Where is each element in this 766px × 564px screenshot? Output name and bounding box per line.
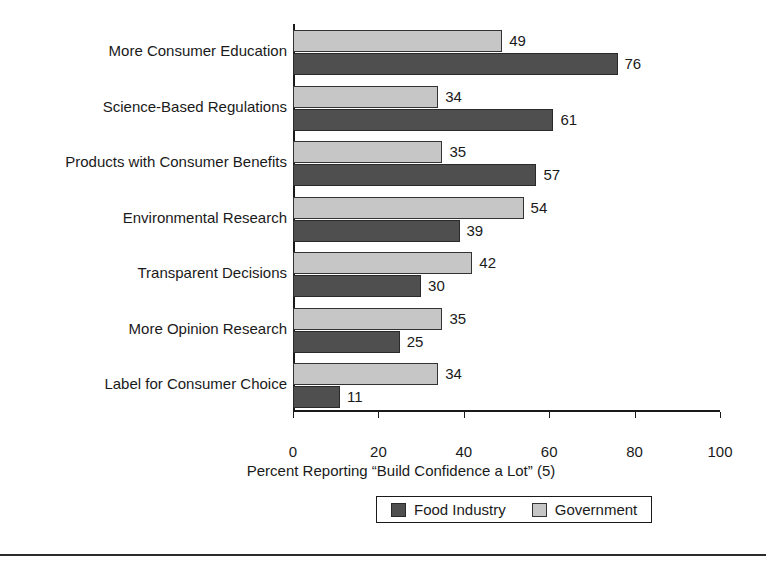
x-axis-tick (635, 412, 636, 418)
legend-item-food-industry: Food Industry (391, 502, 506, 517)
x-tick-label: 100 (707, 444, 732, 459)
bar-gov (293, 86, 438, 108)
bar-ind (293, 53, 618, 75)
bar-gov (293, 308, 442, 330)
bar-chart-figure: More Consumer Education Science-Based Re… (0, 0, 766, 564)
legend-item-government: Government (532, 502, 638, 517)
x-tick-label: 0 (289, 444, 297, 459)
bar-gov (293, 252, 472, 274)
bar-value-label: 11 (347, 386, 363, 408)
bar-value-label: 39 (467, 220, 484, 242)
plot-area: 0 20 40 60 80 100 4976346135575439423035… (293, 24, 720, 412)
bar-value-label: 49 (509, 30, 526, 52)
bar-ind (293, 275, 421, 297)
x-tick-label: 20 (370, 444, 387, 459)
x-axis-title: Percent Reporting “Build Confidence a Lo… (0, 462, 766, 479)
x-tick-label: 40 (455, 444, 472, 459)
x-axis-tick (720, 412, 721, 418)
bar-value-label: 42 (479, 252, 496, 274)
bar-value-label: 57 (543, 164, 560, 186)
bar-value-label: 76 (625, 53, 642, 75)
bar-value-label: 61 (560, 109, 577, 131)
legend-swatch-icon (391, 503, 406, 517)
bar-ind (293, 386, 340, 408)
x-tick-label: 80 (626, 444, 643, 459)
x-axis-tick (549, 412, 550, 418)
category-label: Products with Consumer Benefits (0, 153, 287, 171)
bar-value-label: 35 (449, 308, 466, 330)
x-axis-tick (464, 412, 465, 418)
x-axis-tick (378, 412, 379, 418)
category-label: Environmental Research (0, 209, 287, 227)
category-label: More Consumer Education (0, 42, 287, 60)
footer-divider (0, 554, 766, 556)
legend-swatch-icon (532, 503, 547, 517)
bar-gov (293, 30, 502, 52)
x-axis-tick (293, 412, 294, 418)
category-label: More Opinion Research (0, 320, 287, 338)
bar-value-label: 25 (407, 331, 424, 353)
bar-gov (293, 141, 442, 163)
category-label: Label for Consumer Choice (0, 375, 287, 393)
bar-value-label: 34 (445, 363, 462, 385)
bar-ind (293, 164, 536, 186)
legend-label: Government (555, 502, 638, 517)
bar-gov (293, 197, 524, 219)
bar-ind (293, 331, 400, 353)
bar-value-label: 54 (531, 197, 548, 219)
chart-legend: Food Industry Government (376, 496, 652, 523)
x-tick-label: 60 (541, 444, 558, 459)
category-label: Transparent Decisions (0, 264, 287, 282)
legend-label: Food Industry (414, 502, 506, 517)
bar-value-label: 34 (445, 86, 462, 108)
category-label: Science-Based Regulations (0, 98, 287, 116)
bar-value-label: 35 (449, 141, 466, 163)
bar-gov (293, 363, 438, 385)
x-axis-line (293, 410, 720, 412)
bar-ind (293, 220, 460, 242)
bar-value-label: 30 (428, 275, 445, 297)
bar-ind (293, 109, 553, 131)
